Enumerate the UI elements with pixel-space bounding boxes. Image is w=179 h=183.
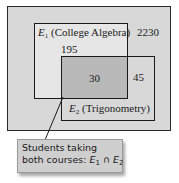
- intersection-callout: Students taking both courses: E1 ∩ E2: [17, 139, 123, 173]
- callout-line-1: Students taking: [22, 142, 118, 154]
- callout-line-2: both courses: E1 ∩ E2: [22, 154, 118, 169]
